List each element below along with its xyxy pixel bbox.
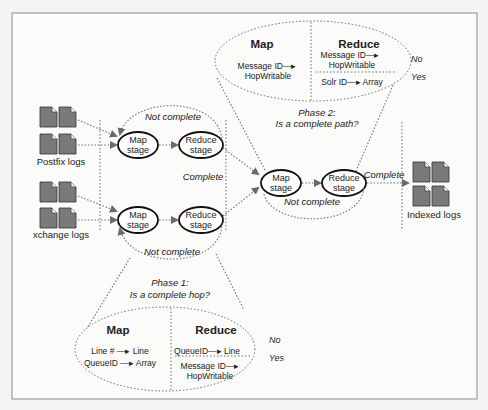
map-stage-2-label: Map [129, 210, 147, 220]
phase2-title-1: Phase 2: [298, 107, 336, 118]
phase2-title-2: Is a complete path? [276, 118, 360, 129]
map-stage-2-sublabel: stage [127, 220, 149, 230]
phase2-reduce-yes-line: Solr ID—▸ Array [321, 77, 383, 87]
phase2-reduce-no-line-2: HopWritable [329, 60, 376, 70]
phase1-reduce-yes-line-2: HopWritable [187, 371, 234, 381]
phase1-map-line-1: Line # —▸ Line [91, 346, 149, 356]
xchange-logs-label: xchange logs [33, 229, 89, 240]
phase2-reduce-no-line-1: Message ID—▸ [321, 50, 380, 60]
phase2-reduce-header: Reduce [338, 38, 380, 50]
reduce-stage-1-sublabel: stage [190, 145, 212, 155]
not-complete-top-label: Not complete [145, 111, 201, 122]
phase1-title-2: Is a complete hop? [130, 289, 211, 300]
phase1-reduce-header: Reduce [195, 324, 237, 336]
reduce-stage-3-sublabel: stage [333, 183, 355, 193]
reduce-stage-2-sublabel: stage [190, 220, 212, 230]
indexed-logs-label: Indexed logs [407, 209, 461, 220]
phase2-yes-label: Yes [411, 72, 427, 82]
phase2-map-line-1: Message ID—▸ [238, 61, 297, 71]
log-processing-diagram: Postfix logs xchange logs Indexed logs M… [0, 0, 488, 410]
complete-phase2-label: Complete [364, 169, 405, 180]
phase1-map-line-2: QueueID —▸ Array [84, 358, 157, 368]
map-stage-1-sublabel: stage [127, 145, 149, 155]
phase1-map-header: Map [107, 324, 130, 336]
map-stage-1-label: Map [129, 135, 147, 145]
reduce-stage-2-label: Reduce [185, 210, 216, 220]
map-stage-3-sublabel: stage [270, 183, 292, 193]
not-complete-bottom-label: Not complete [144, 246, 200, 257]
phase1-reduce-yes-line-1: Message ID—▸ [181, 361, 240, 371]
phase1-title-1: Phase 1: [151, 277, 189, 288]
map-stage-3-label: Map [272, 173, 290, 183]
phase1-reduce-no-line: QueueID—▸ Line [174, 346, 240, 356]
reduce-stage-1-label: Reduce [185, 135, 216, 145]
phase1-no-label: No [269, 335, 281, 345]
phase2-map-line-2: HopWritable [245, 71, 292, 81]
complete-phase1-label: Complete [183, 171, 224, 182]
phase1-yes-label: Yes [269, 353, 285, 363]
not-complete-phase2-label: Not complete [284, 196, 340, 207]
phase2-no-label: No [411, 54, 423, 64]
phase2-map-header: Map [251, 38, 274, 50]
reduce-stage-3-label: Reduce [328, 173, 359, 183]
postfix-logs-label: Postfix logs [37, 156, 86, 167]
